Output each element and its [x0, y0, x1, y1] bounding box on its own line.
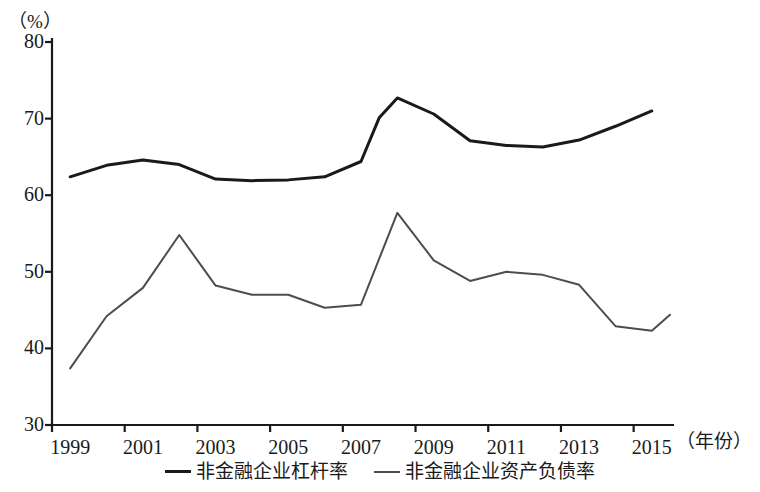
chart-legend: 非金融企业杠杆率 非金融企业资产负债率 [0, 462, 760, 481]
data-series [70, 98, 670, 368]
series-line-1 [70, 213, 670, 369]
plot-area [0, 0, 760, 492]
legend-line-icon-0 [165, 470, 191, 473]
chart-container: （%） 304050607080 19992001200320052007200… [0, 0, 760, 492]
legend-label-0: 非金融企业杠杆率 [196, 462, 348, 481]
legend-line-icon-1 [374, 471, 400, 473]
series-line-0 [70, 98, 652, 181]
legend-label-1: 非金融企业资产负债率 [405, 462, 595, 481]
legend-item-1: 非金融企业资产负债率 [374, 462, 595, 481]
legend-item-0: 非金融企业杠杆率 [165, 462, 348, 481]
axes [45, 38, 674, 432]
